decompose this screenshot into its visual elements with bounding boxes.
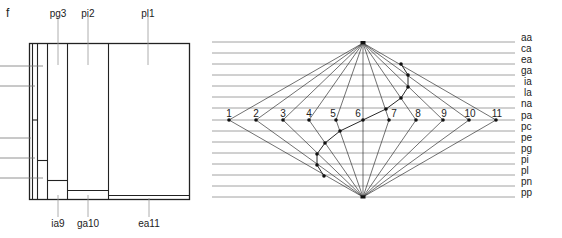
row-label-na: na [521,98,533,109]
left-partition-diagram [0,17,190,217]
row-label-ia: ia [524,76,532,87]
point-label-4: 4 [306,108,312,119]
label-pg3: pg3 [50,8,67,19]
label-ga10: ga10 [77,218,100,229]
point-label-9: 9 [441,108,447,119]
label-ea11: ea11 [138,218,160,229]
row-label-ea: ea [521,54,533,65]
point-label-2: 2 [253,108,259,119]
row-label-pp: pp [521,187,533,198]
point-label-7: 7 [391,108,397,119]
point-label-1: 1 [226,108,232,119]
row-label-la: la [524,87,532,98]
point-labels: 1 2 3 4 5 6 7 8 9 10 11 [226,108,502,119]
row-label-pa: pa [521,110,533,121]
row-label-ca: ca [521,43,532,54]
row-label-pi: pi [521,154,529,165]
figure: f [0,0,562,238]
row-label-aa: aa [521,32,533,43]
point-label-11: 11 [492,108,503,119]
right-lattice-diagram: 1 2 3 4 5 6 7 8 9 10 11 aa ca ea ga ia l… [212,32,533,199]
row-labels: aa ca ea ga ia la na pa pc pe pg pi pl p… [521,32,533,198]
row-label-pl: pl [521,165,529,176]
row-label-ga: ga [521,65,533,76]
point-label-6: 6 [355,108,361,119]
label-pi2: pi2 [81,8,95,19]
label-ia9: ia9 [51,218,65,229]
outer-rect [30,44,190,200]
point-label-8: 8 [415,108,421,119]
row-label-pg: pg [521,143,532,154]
label-pl1: pl1 [141,8,155,19]
point-label-3: 3 [280,108,286,119]
point-label-5: 5 [330,108,336,119]
figure-label: f [6,6,10,20]
point-label-10: 10 [464,108,476,119]
row-label-pn: pn [521,176,532,187]
row-label-pc: pc [521,121,532,132]
row-label-pe: pe [521,132,533,143]
